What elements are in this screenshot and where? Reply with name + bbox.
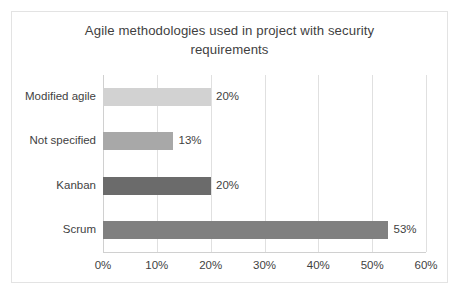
bar-scrum[interactable] — [103, 221, 388, 239]
bar-not-specified[interactable] — [103, 132, 173, 150]
bar-row: Scrum 53% — [103, 208, 426, 252]
chart-container: Agile methodologies used in project with… — [11, 11, 448, 283]
bar-value-scrum: 53% — [394, 220, 417, 239]
x-tick-label-30: 30% — [253, 259, 276, 271]
bar-value-modified-agile: 20% — [216, 87, 239, 106]
category-label-scrum: Scrum — [63, 220, 96, 239]
bar-kanban[interactable] — [103, 177, 211, 195]
chart-title: Agile methodologies used in project with… — [42, 21, 417, 59]
category-label-modified-agile: Modified agile — [25, 87, 96, 106]
x-tick-label-60: 60% — [414, 259, 437, 271]
bar-row: Not specified 13% — [103, 119, 426, 163]
x-tick-label-50: 50% — [361, 259, 384, 271]
bar-row: Modified agile 20% — [103, 75, 426, 119]
bar-value-not-specified: 13% — [179, 131, 202, 150]
plot-area: Modified agile 20% Not specified 13% Kan… — [103, 75, 426, 252]
gridline-60 — [426, 75, 427, 252]
x-axis-line — [103, 252, 426, 253]
x-tick-label-40: 40% — [307, 259, 330, 271]
bar-value-kanban: 20% — [216, 176, 239, 195]
bar-modified-agile[interactable] — [103, 88, 211, 106]
bar-row: Kanban 20% — [103, 164, 426, 208]
chart-title-line-2: requirements — [42, 40, 417, 59]
x-tick-label-0: 0% — [95, 259, 112, 271]
x-tick-label-20: 20% — [199, 259, 222, 271]
category-label-not-specified: Not specified — [30, 131, 96, 150]
x-tick-label-10: 10% — [145, 259, 168, 271]
chart-title-line-1: Agile methodologies used in project with… — [42, 21, 417, 40]
category-label-kanban: Kanban — [56, 176, 96, 195]
